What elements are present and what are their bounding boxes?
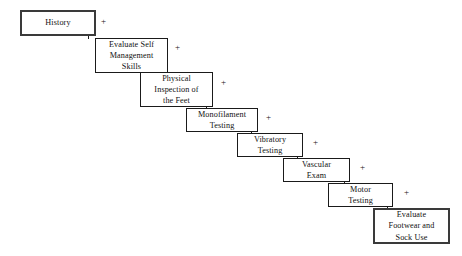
diagram-canvas: History+Evaluate Self Management Skills+… <box>0 0 462 256</box>
step-box-6[interactable]: Vascular Exam <box>283 158 350 182</box>
connector-line-step-1 <box>88 36 89 39</box>
plus-sign-icon-step-6: + <box>360 163 365 172</box>
step-label-3: Physical Inspection of the Feet <box>151 73 201 107</box>
step-label-7: Motor Testing <box>345 184 376 206</box>
step-box-1[interactable]: History <box>20 10 96 36</box>
step-label-5: Vibratory Testing <box>251 134 289 156</box>
plus-sign-icon-step-2: + <box>175 43 180 52</box>
step-box-8[interactable]: Evaluate Footwear and Sock Use <box>373 208 450 244</box>
step-label-8: Evaluate Footwear and Sock Use <box>386 209 438 243</box>
plus-sign-icon-step-5: + <box>313 138 318 147</box>
plus-sign-icon-step-1: + <box>101 17 106 26</box>
plus-sign-icon-step-7: + <box>404 188 409 197</box>
step-box-4[interactable]: Monofilament Testing <box>186 108 258 132</box>
step-label-6: Vascular Exam <box>299 159 334 181</box>
plus-sign-icon-step-3: + <box>221 78 226 87</box>
plus-sign-icon-step-4: + <box>266 113 271 122</box>
step-box-7[interactable]: Motor Testing <box>328 183 393 207</box>
step-box-2[interactable]: Evaluate Self Management Skills <box>95 38 168 73</box>
step-box-3[interactable]: Physical Inspection of the Feet <box>140 72 213 107</box>
step-box-5[interactable]: Vibratory Testing <box>237 133 303 157</box>
step-label-2: Evaluate Self Management Skills <box>106 39 157 73</box>
step-label-4: Monofilament Testing <box>195 109 249 131</box>
step-label-1: History <box>42 17 73 28</box>
